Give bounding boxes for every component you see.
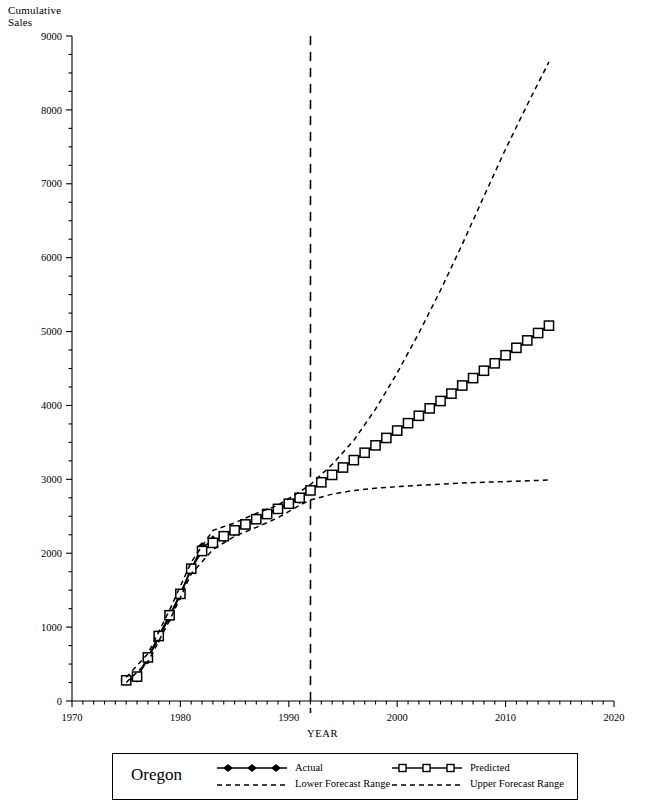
legend-region-label: Oregon [131,765,182,785]
data-series-group [121,62,554,686]
y-tick-label: 6000 [41,252,62,263]
y-tick-label: 9000 [41,31,62,42]
legend-symbol-lower-forecast-range [213,779,291,791]
legend-label-predicted: Predicted [470,762,510,774]
y-tick-label: 3000 [41,474,62,485]
x-tick-label: 2000 [387,712,408,723]
x-axis: 197019801990200020102020 [62,701,625,723]
x-tick-label: 1970 [62,712,83,723]
legend-label-lower-forecast-range: Lower Forecast Range [295,778,390,790]
series-predicted [122,321,554,685]
y-tick-label: 1000 [41,622,62,633]
x-tick-label: 2020 [604,712,625,723]
legend-label-actual: Actual [295,762,323,774]
legend-symbol-predicted [388,762,466,774]
x-tick-label: 1990 [278,712,299,723]
y-tick-label: 5000 [41,326,62,337]
x-axis-title: YEAR [0,728,645,740]
x-tick-label: 2010 [495,712,516,723]
plot-area: 0100020003000400050006000700080009000 19… [0,0,645,760]
series-lower-forecast-range [126,480,549,682]
y-axis: 0100020003000400050006000700080009000 [41,31,72,707]
y-tick-label: 7000 [41,178,62,189]
y-tick-label: 0 [57,696,62,707]
x-tick-label: 1980 [170,712,191,723]
legend-symbol-upper-forecast-range [388,779,466,791]
legend-symbol-actual [213,762,291,774]
y-tick-label: 2000 [41,548,62,559]
chart-root: Cumulative Sales 01000200030004000500060… [0,0,645,807]
y-tick-label: 4000 [41,400,62,411]
legend: Oregon Actual Lower Forecast Range Predi… [112,753,578,800]
legend-label-upper-forecast-range: Upper Forecast Range [470,778,564,790]
y-tick-label: 8000 [41,105,62,116]
